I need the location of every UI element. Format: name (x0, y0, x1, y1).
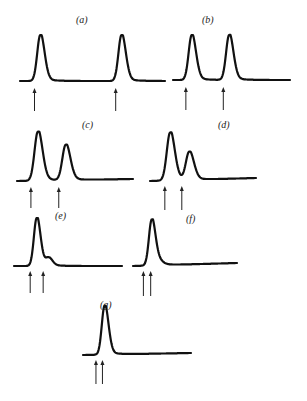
arrow-up-icon (141, 271, 145, 276)
trace-g (83, 306, 191, 355)
panel-f: (f) (133, 213, 237, 296)
trace-a (20, 35, 165, 81)
arrow-up-icon (221, 87, 225, 92)
arrow-up-icon (149, 271, 153, 276)
arrow-up-icon (163, 186, 167, 191)
panel-e: (e) (14, 210, 122, 293)
panel-label-a: (a) (76, 14, 88, 26)
arrow-up-icon (180, 186, 184, 191)
panel-label-e: (e) (55, 210, 67, 222)
arrow-up-icon (57, 187, 61, 192)
trace-e (14, 218, 122, 266)
trace-f (133, 219, 237, 266)
panel-g: (g) (83, 299, 191, 384)
arrow-up-icon (29, 187, 33, 192)
arrow-up-icon (114, 88, 118, 93)
panel-a: (a) (20, 14, 165, 111)
panel-label-d: (d) (218, 119, 230, 131)
arrow-up-icon (41, 271, 45, 276)
panel-d: (d) (150, 119, 256, 210)
arrow-up-icon (33, 88, 37, 93)
trace-d (150, 132, 256, 181)
panel-b: (b) (173, 14, 290, 110)
panel-c: (c) (17, 119, 133, 208)
arrow-up-icon (28, 271, 32, 276)
panel-label-f: (f) (186, 213, 196, 225)
trace-b (173, 35, 290, 80)
arrow-up-icon (94, 360, 98, 365)
resolution-diagram: (a) (b) (c) (d) (e) (f) (g) (0, 0, 307, 401)
arrow-up-icon (100, 360, 104, 365)
trace-c (17, 132, 133, 181)
arrow-up-icon (184, 87, 188, 92)
panel-label-b: (b) (202, 14, 214, 26)
panel-label-c: (c) (82, 119, 94, 131)
